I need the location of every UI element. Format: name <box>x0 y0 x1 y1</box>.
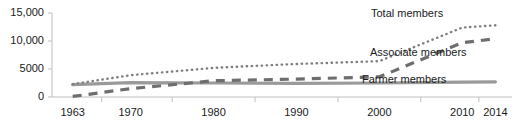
y-axis-ticks <box>48 13 52 97</box>
x-axis-tick-label: 2014 <box>465 107 518 118</box>
series-label-farmer-members: Farmer members <box>362 74 446 85</box>
y-axis-tick-label: 10,000 <box>0 35 44 46</box>
y-axis-tick-label: 5000 <box>0 63 44 74</box>
x-axis-tick-label: 1990 <box>267 107 327 118</box>
x-axis-tick-label: 2000 <box>349 107 409 118</box>
series-label-associate-members: Associate members <box>370 47 467 58</box>
y-axis-tick-label: 15,000 <box>0 7 44 18</box>
y-axis-tick-label: 0 <box>0 91 44 102</box>
x-axis-tick-label: 1980 <box>184 107 244 118</box>
line-chart: 0 5000 10,000 15,000 1963 1970 1980 1990… <box>0 0 518 129</box>
x-axis-tick-label: 1963 <box>43 107 103 118</box>
series-label-total-members: Total members <box>371 8 443 19</box>
x-axis-tick-label: 1970 <box>101 107 161 118</box>
x-axis-ticks <box>102 97 479 102</box>
series-group <box>73 25 496 96</box>
